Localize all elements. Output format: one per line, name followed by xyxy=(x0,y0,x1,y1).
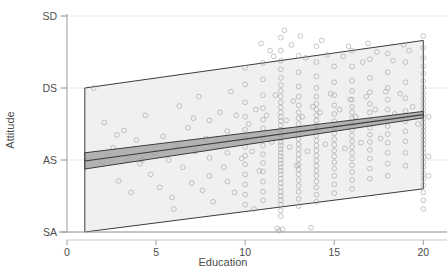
chart-canvas: SDDSASSA05101520 Education Attitude xyxy=(0,0,447,277)
x-tick-label: 0 xyxy=(64,246,70,258)
x-axis-title: Education xyxy=(199,256,248,268)
y-tick-label: AS xyxy=(43,154,57,166)
x-tick-label: 20 xyxy=(417,246,429,258)
y-tick-label: SA xyxy=(43,226,57,238)
y-axis-title: Attitude xyxy=(4,111,16,148)
x-tick-label: 5 xyxy=(153,246,159,258)
scatter-plot-figure: SDDSASSA05101520 Education Attitude xyxy=(0,0,447,277)
y-tick-label: DS xyxy=(42,82,57,94)
y-tick-label: SD xyxy=(42,10,57,22)
x-tick-label: 15 xyxy=(328,246,340,258)
